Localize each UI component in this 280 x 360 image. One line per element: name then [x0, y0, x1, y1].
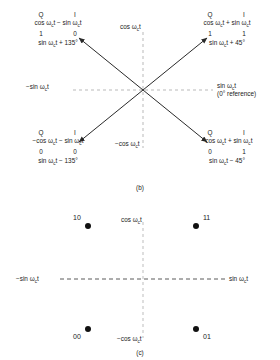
axis-label-tail: t: [246, 275, 248, 282]
constellation-point-00: [85, 326, 91, 332]
axis-label-text: cos ω: [121, 216, 138, 223]
axis-label-right-c: sin ωct: [229, 275, 248, 286]
axis-label-top-c: cos ωct: [121, 216, 142, 227]
constellation-point-01: [193, 326, 199, 332]
axis-label-tail: t: [140, 335, 142, 342]
constellation-label-11: 11: [203, 214, 210, 221]
axis-label-text: −sin ω: [16, 275, 35, 282]
axis-label-tail: t: [140, 216, 142, 223]
axis-label-text: −cos ω: [117, 335, 137, 342]
axis-label-bottom-c: −cos ωct: [117, 335, 142, 346]
axis-label-text: sin ω: [229, 275, 244, 282]
constellation-label-01: 01: [203, 333, 211, 340]
panel-c-axes: [0, 0, 280, 360]
constellation-point-10: [85, 223, 91, 229]
constellation-label-10: 10: [73, 214, 81, 221]
caption-panel-c: (c): [0, 349, 280, 356]
axis-label-tail: t: [37, 275, 39, 282]
axis-label-left-c: −sin ωct: [16, 275, 39, 286]
panel-c-constellation-diagram: 10 11 00 01 cos ωct −cos ωct −sin ωct si…: [0, 0, 280, 360]
constellation-point-11: [193, 223, 199, 229]
constellation-label-00: 00: [73, 333, 81, 340]
